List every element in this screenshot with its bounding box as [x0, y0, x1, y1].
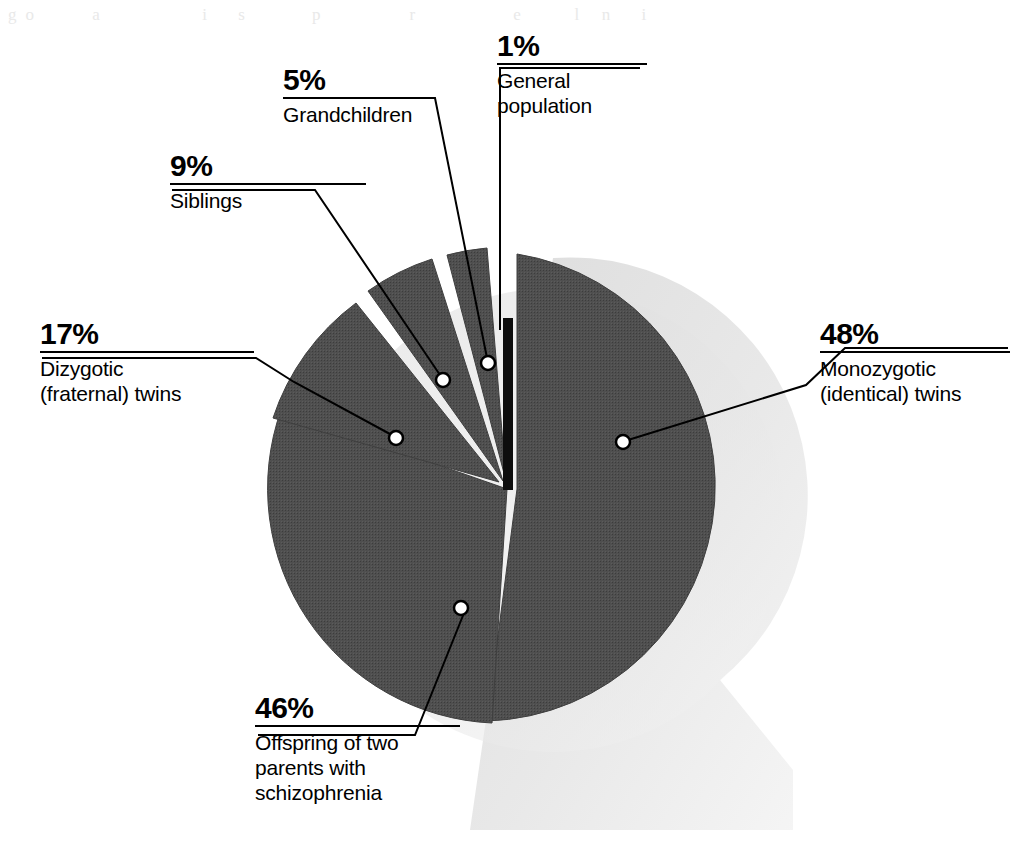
leader-dot-offspring — [454, 601, 468, 615]
callout-general-population[interactable]: 1% General population — [497, 30, 647, 118]
pie-chart — [0, 0, 1013, 864]
callout-monozygotic[interactable]: 48% Monozygotic (identical) twins — [820, 318, 1010, 406]
callout-grandchildren[interactable]: 5% Grandchildren — [283, 64, 435, 127]
callout-rule — [283, 97, 435, 99]
callout-offspring[interactable]: 46% Offspring of two parents with schizo… — [255, 692, 460, 805]
figure-page: g o a i s p r e l n i — [0, 0, 1013, 864]
callout-description: Monozygotic (identical) twins — [820, 356, 1010, 406]
callout-description: Dizygotic (fraternal) twins — [40, 356, 254, 406]
leader-dot-dizygotic — [389, 431, 403, 445]
callout-percent: 48% — [820, 318, 1010, 349]
leader-dot-grandchildren — [481, 356, 495, 370]
callout-percent: 5% — [283, 64, 435, 95]
callout-percent: 46% — [255, 692, 460, 723]
callout-description: Offspring of two parents with schizophre… — [255, 730, 460, 805]
leader-dot-monozygotic — [616, 435, 630, 449]
callout-rule — [255, 725, 460, 727]
callout-description: Siblings — [170, 188, 366, 213]
pie-slice-general-population[interactable] — [503, 318, 513, 490]
leader-dot-siblings — [436, 373, 450, 387]
callout-rule — [820, 351, 1010, 353]
callout-percent: 9% — [170, 150, 366, 181]
callout-rule — [497, 63, 647, 65]
callout-description: General population — [497, 68, 647, 118]
callout-percent: 1% — [497, 30, 647, 61]
callout-siblings[interactable]: 9% Siblings — [170, 150, 366, 213]
callout-description: Grandchildren — [283, 102, 435, 127]
callout-rule — [170, 183, 366, 185]
callout-dizygotic[interactable]: 17% Dizygotic (fraternal) twins — [40, 318, 254, 406]
callout-percent: 17% — [40, 318, 254, 349]
callout-rule — [40, 351, 254, 353]
